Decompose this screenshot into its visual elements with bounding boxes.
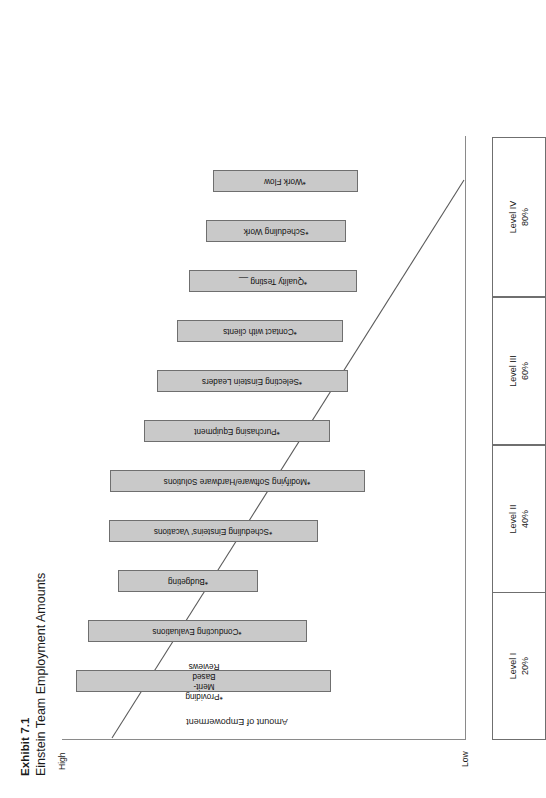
task-bar[interactable]: *Budgeting xyxy=(118,570,258,592)
task-bar[interactable]: *Modifying Software/Hardware Solutions xyxy=(110,470,365,492)
task-bar-label: *Scheduling Einsteins' Vacations xyxy=(154,526,272,536)
y-axis-title: Amount of Empowerment xyxy=(157,717,317,727)
task-bar-label: *Modifying Software/Hardware Solutions xyxy=(164,476,311,486)
chart-plot-area: High Low Amount of Empowerment *Providin… xyxy=(62,136,466,740)
task-bar[interactable]: *Contact with clients xyxy=(177,320,343,342)
task-bar[interactable]: *Conducting Evaluations xyxy=(88,620,307,642)
level-box-percent: 80% xyxy=(519,208,531,226)
task-bar[interactable]: *Selecting Einstein Leaders xyxy=(157,370,348,392)
level-box[interactable]: Level II40% xyxy=(492,445,546,593)
task-bar-caption: *Work Flow xyxy=(214,171,357,191)
level-box-name: Level I xyxy=(507,653,519,680)
task-bar[interactable]: *Work Flow xyxy=(213,170,358,192)
level-box-name: Level II xyxy=(507,504,519,533)
task-bar[interactable]: *Purchasing Equipment xyxy=(144,420,330,442)
task-bar-label: *Selecting Einstein Leaders xyxy=(202,376,302,386)
task-bar-caption: *Modifying Software/Hardware Solutions xyxy=(111,471,364,491)
level-box-name: Level IV xyxy=(507,201,519,234)
exhibit-title-block: Exhibit 7.1 Einstein Team Employment Amo… xyxy=(18,573,49,776)
task-bar-label: *Providing Merit-Based Reviews xyxy=(185,661,222,701)
exhibit-number: Exhibit 7.1 xyxy=(18,573,32,776)
exhibit-title: Einstein Team Employment Amounts xyxy=(33,573,49,776)
level-box[interactable]: Level III60% xyxy=(492,297,546,445)
level-scale: Level I20%Level II40%Level III60%Level I… xyxy=(492,136,493,740)
level-box-percent: 40% xyxy=(519,510,531,528)
level-box-percent: 60% xyxy=(519,362,531,380)
task-bar-caption: *Providing Merit-Based Reviews xyxy=(77,671,330,691)
task-bar[interactable]: *Scheduling Einsteins' Vacations xyxy=(109,520,318,542)
level-box-percent: 20% xyxy=(519,657,531,675)
task-bar-label: *Conducting Evaluations xyxy=(153,626,242,636)
task-bar-caption: *Scheduling Work xyxy=(207,221,345,241)
task-bar-label: *Purchasing Equipment xyxy=(194,426,280,436)
task-bar-caption: *Purchasing Equipment xyxy=(145,421,329,441)
task-bar-caption: *Budgeting xyxy=(119,571,257,591)
axis-label-high: High xyxy=(57,753,67,770)
level-box[interactable]: Level IV80% xyxy=(492,137,546,297)
task-bar-caption: *Quality Testing __ xyxy=(190,271,356,291)
axis-label-low: Low xyxy=(460,751,470,767)
task-bar-label: *Budgeting xyxy=(168,576,208,586)
task-bar-label: *Scheduling Work xyxy=(244,226,309,236)
task-bar-caption: *Conducting Evaluations xyxy=(89,621,306,641)
task-bar-caption: *Contact with clients xyxy=(178,321,342,341)
task-bar-caption: *Scheduling Einsteins' Vacations xyxy=(110,521,317,541)
task-bar[interactable]: *Quality Testing __ xyxy=(189,270,357,292)
task-bar[interactable]: *Scheduling Work xyxy=(206,220,346,242)
task-bar-label: *Quality Testing __ xyxy=(239,276,307,286)
task-bar-caption: *Selecting Einstein Leaders xyxy=(158,371,347,391)
task-bar[interactable]: *Providing Merit-Based Reviews xyxy=(76,670,331,692)
task-bar-label: *Work Flow xyxy=(264,176,306,186)
task-bar-label: *Contact with clients xyxy=(223,326,297,336)
level-box[interactable]: Level I20% xyxy=(492,592,546,740)
level-box-name: Level III xyxy=(507,355,519,387)
